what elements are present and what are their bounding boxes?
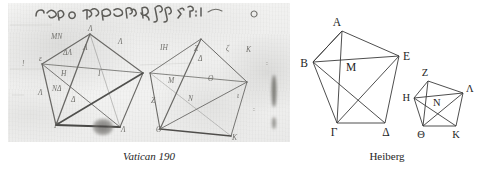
svg-text:Θ: Θ <box>208 74 214 83</box>
svg-text:Μ: Μ <box>167 76 175 85</box>
svg-text:ι: ι <box>237 91 239 100</box>
svg-text:ε: ε <box>39 54 42 63</box>
svg-text:Ν: Ν <box>187 94 194 103</box>
svg-text:Ι: Ι <box>97 69 101 78</box>
figure-two-panel-comparison: ΜΝ ΔΛ Λ Λ Η ΝΔ Λ Δ Ι ! ΙΗ Ζ Δ ζ Κ Μ Θ Ν … <box>0 0 484 177</box>
label-vertex-kappa: Κ <box>452 129 460 140</box>
svg-text:Λ: Λ <box>87 24 93 33</box>
svg-text:Λ: Λ <box>82 43 88 52</box>
large-pentagon-edges <box>313 31 399 123</box>
label-vertex-epsilon: Ε <box>403 50 410 62</box>
panel-vatican-manuscript: ΜΝ ΔΛ Λ Λ Η ΝΔ Λ Δ Ι ! ΙΗ Ζ Δ ζ Κ Μ Θ Ν … <box>8 3 290 142</box>
svg-text:!: ! <box>22 59 25 68</box>
svg-text:ΜΝ: ΜΝ <box>50 32 63 41</box>
label-vertex-eta: Η <box>402 92 410 103</box>
svg-text:Θ: Θ <box>156 125 162 134</box>
svg-text::: : <box>266 59 268 67</box>
svg-text:ΝΔ: ΝΔ <box>51 84 62 93</box>
svg-text:Κ: Κ <box>245 45 252 54</box>
svg-text:Κ: Κ <box>231 133 238 142</box>
manuscript-ink-drawing: ΜΝ ΔΛ Λ Λ Η ΝΔ Λ Δ Ι ! ΙΗ Ζ Δ ζ Κ Μ Θ Ν … <box>8 3 290 142</box>
panel-heiberg-diagram: Α Β Ε Γ Δ Μ Ζ Η Λ Θ Κ <box>292 3 482 142</box>
svg-text:Λ: Λ <box>117 37 123 46</box>
svg-text:Δ: Δ <box>197 54 203 63</box>
caption-heiberg: Heiberg <box>296 150 478 163</box>
label-point-mu: Μ <box>346 61 356 73</box>
label-vertex-beta: Β <box>300 57 308 69</box>
svg-text:Δ: Δ <box>70 95 76 104</box>
caption-vatican: Vatican 190 <box>8 150 290 163</box>
label-vertex-alpha: Α <box>333 16 342 28</box>
svg-text:ΔΛ: ΔΛ <box>62 48 72 57</box>
heiberg-geometry-svg: Α Β Ε Γ Δ Μ Ζ Η Λ Θ Κ <box>292 3 482 142</box>
label-vertex-delta: Δ <box>382 126 389 138</box>
svg-text:Λ: Λ <box>37 88 43 97</box>
svg-text:Γ: Γ <box>53 121 59 130</box>
label-vertex-theta: Θ <box>417 129 425 140</box>
svg-text:Λ: Λ <box>120 125 126 134</box>
svg-text:ΙΗ: ΙΗ <box>159 43 168 52</box>
svg-text::: : <box>253 105 255 113</box>
label-vertex-lambda: Λ <box>466 83 474 94</box>
svg-text:Η: Η <box>60 69 67 78</box>
label-vertex-zeta: Ζ <box>422 67 428 78</box>
large-pentagon-diagonals <box>313 31 399 123</box>
svg-text:ζ: ζ <box>226 44 230 53</box>
label-point-nu: Ν <box>433 97 441 108</box>
label-vertex-gamma: Γ <box>331 126 338 138</box>
